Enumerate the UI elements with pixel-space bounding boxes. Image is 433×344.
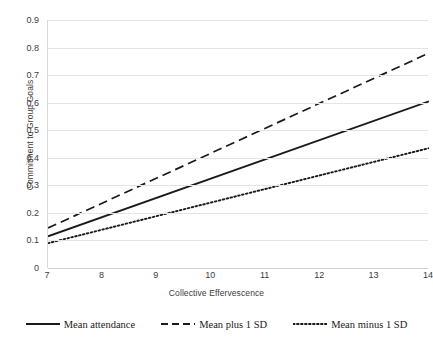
- legend-label: Mean attendance: [64, 319, 135, 330]
- y-axis-tick-label: 0.1: [26, 235, 39, 245]
- legend-label: Mean minus 1 SD: [331, 319, 407, 330]
- gridline: [48, 20, 428, 21]
- gridline: [48, 268, 428, 269]
- x-axis-tick-label: 11: [260, 270, 269, 280]
- x-axis-tick-label: 13: [369, 270, 379, 280]
- gridline: [48, 185, 428, 186]
- gridline: [48, 213, 428, 214]
- y-axis-tick-label: 0.6: [26, 98, 39, 108]
- series-line: [48, 148, 429, 243]
- x-axis-tick-label: 8: [99, 270, 104, 280]
- y-axis-tick-label: 0.2: [26, 208, 39, 218]
- x-axis-tick-label: 14: [423, 270, 433, 280]
- x-axis-tick-label: 12: [314, 270, 324, 280]
- gridline: [48, 75, 428, 76]
- series-lines: [48, 20, 429, 268]
- legend-item[interactable]: Mean attendance: [26, 319, 135, 330]
- legend-swatch-dashed-icon: [161, 319, 195, 329]
- x-axis-tick-label: 9: [153, 270, 158, 280]
- x-axis-tick-labels: 7891011121314: [0, 270, 433, 286]
- legend-item[interactable]: Mean minus 1 SD: [293, 319, 407, 330]
- legend-swatch-solid-icon: [26, 319, 60, 329]
- x-axis-tick-label: 7: [44, 270, 49, 280]
- x-axis-tick-label: 10: [205, 270, 215, 280]
- series-line: [48, 53, 429, 228]
- legend-item[interactable]: Mean plus 1 SD: [161, 319, 267, 330]
- gridline: [48, 48, 428, 49]
- y-axis-tick-label: 0.7: [26, 70, 39, 80]
- y-axis-tick-label: 0.5: [26, 125, 39, 135]
- gridline: [48, 240, 428, 241]
- y-axis-tick-label: 0.8: [26, 43, 39, 53]
- line-chart: Commitment to Group Goals 00.10.20.30.40…: [0, 0, 433, 344]
- series-line: [48, 101, 429, 236]
- gridline: [48, 103, 428, 104]
- gridline: [48, 130, 428, 131]
- plot-area: [47, 20, 428, 268]
- legend-label: Mean plus 1 SD: [199, 319, 267, 330]
- y-axis-tick-label: 0.9: [26, 15, 39, 25]
- gridline: [48, 158, 428, 159]
- y-axis-tick-label: 0.3: [26, 180, 39, 190]
- legend-swatch-dotted-icon: [293, 319, 327, 329]
- x-axis-title: Collective Effervescence: [0, 288, 433, 298]
- chart-legend: Mean attendanceMean plus 1 SDMean minus …: [0, 314, 433, 334]
- y-axis-tick-label: 0.4: [26, 153, 39, 163]
